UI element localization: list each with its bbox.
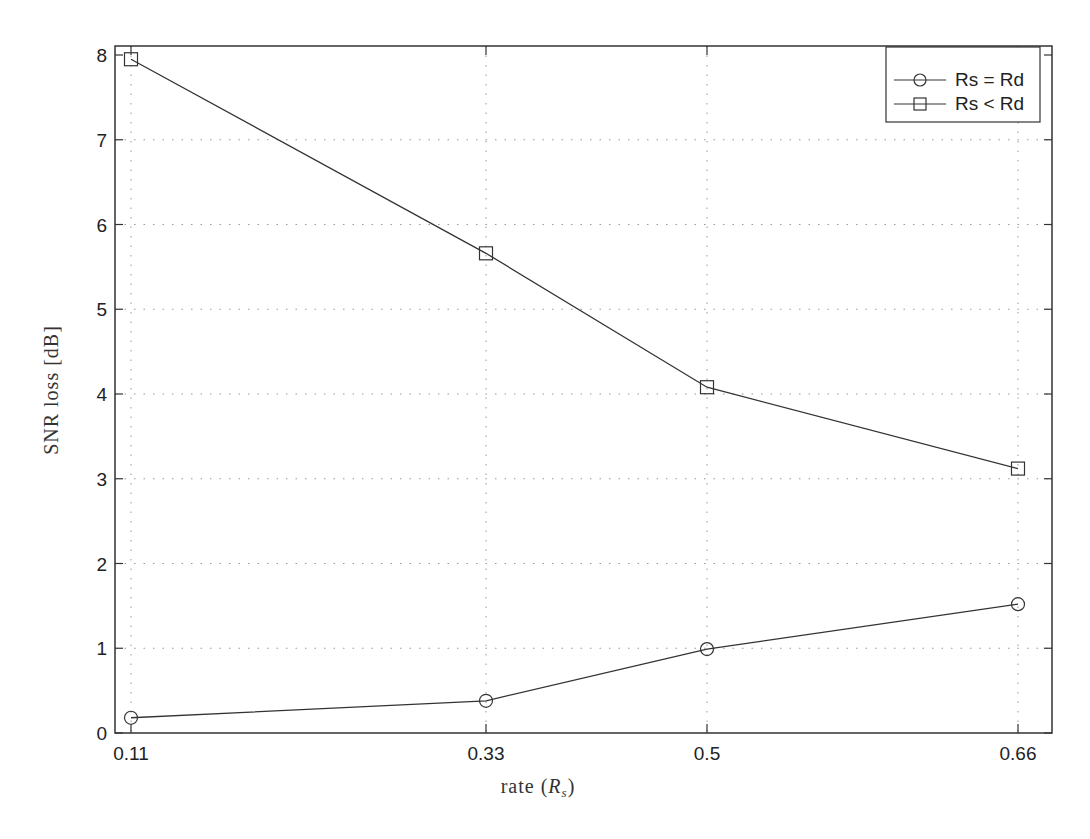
x-tick-label: 0.33: [468, 743, 505, 764]
x-tick-label: 0.66: [1000, 743, 1037, 764]
legend-label-rs-eq-rd: Rs = Rd: [955, 69, 1024, 90]
data-series: [125, 53, 1025, 725]
plot-area-frame: [115, 46, 1052, 733]
y-tick-label: 5: [96, 299, 107, 320]
y-tick-label: 4: [96, 384, 107, 405]
legend-label-rs-lt-rd: Rs < Rd: [955, 93, 1024, 114]
x-tick-label: 0.11: [113, 743, 149, 764]
x-axis-label: rate (Rs): [501, 775, 576, 800]
series-line: [131, 59, 1018, 468]
y-tick-label: 2: [96, 554, 107, 575]
legend: Rs = Rd Rs < Rd: [886, 47, 1040, 122]
x-axis: 0.110.330.50.66: [113, 46, 1036, 764]
x-tick-label: 0.5: [694, 743, 720, 764]
y-axis-label: SNR loss [dB]: [40, 325, 62, 455]
y-tick-label: 3: [96, 469, 107, 490]
y-tick-label: 8: [96, 45, 107, 66]
y-tick-label: 7: [96, 130, 107, 151]
y-tick-label: 1: [96, 638, 107, 659]
grid-lines: [115, 46, 1052, 733]
series-line: [131, 604, 1018, 718]
y-tick-label: 0: [96, 723, 107, 744]
line-chart: 012345678 0.110.330.50.66 SNR loss [dB] …: [0, 0, 1090, 839]
y-tick-label: 6: [96, 215, 107, 236]
